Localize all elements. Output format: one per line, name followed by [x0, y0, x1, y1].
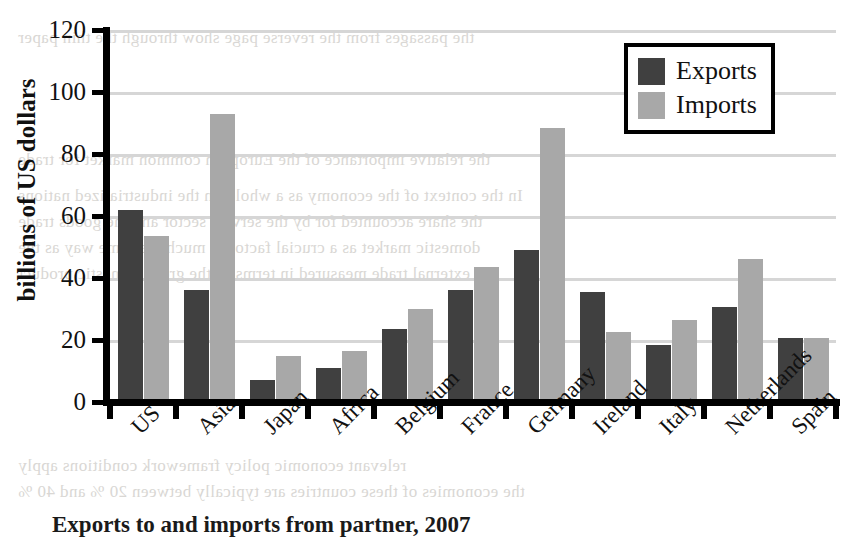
- x-axis-tick: [437, 406, 443, 419]
- x-axis-tick: [767, 406, 773, 419]
- bar-exports-netherlands: [712, 307, 737, 402]
- bar-exports-germany: [514, 250, 539, 402]
- bar-imports-italy: [672, 320, 697, 402]
- x-axis-tick: [107, 406, 113, 419]
- bar-imports-asia: [210, 114, 235, 402]
- y-axis-tick-label: 20: [28, 327, 86, 352]
- y-axis-tick-label: 80: [28, 141, 86, 166]
- y-axis-tick-label: 0: [28, 389, 86, 414]
- bar-imports-us: [144, 236, 169, 402]
- y-axis-line: [103, 27, 110, 405]
- x-axis-tick: [305, 406, 311, 419]
- bar-imports-netherlands: [738, 259, 763, 402]
- y-axis-tick: [92, 214, 104, 219]
- bar-imports-germany: [540, 128, 565, 402]
- x-axis-label-us: US: [127, 401, 164, 438]
- y-axis-tick: [92, 28, 104, 33]
- y-axis-tick-label: 120: [28, 17, 86, 42]
- bar-exports-africa: [316, 368, 341, 402]
- y-axis-tick-label: 40: [28, 265, 86, 290]
- legend: ExportsImports: [624, 43, 775, 134]
- y-axis-tick: [92, 400, 104, 405]
- x-axis-tick: [173, 406, 179, 419]
- bar-exports-belgium: [382, 329, 407, 402]
- legend-label: Imports: [676, 92, 757, 118]
- figure-caption: Exports to and imports from partner, 200…: [52, 512, 470, 538]
- gridline: [110, 30, 836, 33]
- x-axis-tick: [569, 406, 575, 419]
- y-axis-tick-label: 100: [28, 79, 86, 104]
- bar-exports-us: [118, 210, 143, 402]
- legend-swatch-imports-icon: [638, 92, 665, 119]
- y-axis-tick-labels: 020406080100120: [0, 0, 90, 410]
- x-axis-line: [103, 399, 840, 406]
- legend-item-imports: Imports: [638, 88, 757, 122]
- bar-exports-asia: [184, 290, 209, 402]
- x-axis-tick: [833, 406, 839, 419]
- legend-item-exports: Exports: [638, 54, 757, 88]
- y-axis-tick: [92, 152, 104, 157]
- x-axis-tick: [635, 406, 641, 419]
- x-axis-tick: [371, 406, 377, 419]
- legend-label: Exports: [676, 58, 757, 84]
- y-axis-tick: [92, 338, 104, 343]
- x-axis-tick: [503, 406, 509, 419]
- y-axis-tick-label: 60: [28, 203, 86, 228]
- x-axis-tick: [239, 406, 245, 419]
- y-axis-tick: [92, 276, 104, 281]
- x-axis-tick: [701, 406, 707, 419]
- y-axis-tick: [92, 90, 104, 95]
- legend-swatch-exports-icon: [638, 58, 665, 85]
